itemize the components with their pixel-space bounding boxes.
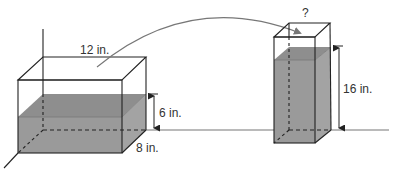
left-water-front: [18, 117, 122, 153]
curved-arrow-icon: [97, 18, 300, 67]
right-water-front: [274, 60, 315, 143]
left-length-label: 12 in.: [80, 43, 109, 57]
right-water-height-label: 16 in.: [343, 82, 372, 96]
right-top-face: [274, 23, 330, 37]
left-axis-diagonal: [4, 153, 18, 168]
right-base-unknown-label: ?: [302, 6, 309, 20]
left-container: 12 in. 6 in. 8 in.: [4, 29, 182, 168]
left-top-face: [18, 57, 146, 80]
right-container: ? 16 in.: [274, 6, 372, 143]
water-transfer-diagram: 12 in. 6 in. 8 in. ? 16 in.: [0, 0, 401, 172]
right-water-side: [315, 47, 331, 143]
left-water-height-label: 6 in.: [159, 106, 182, 120]
left-width-label: 8 in.: [136, 141, 159, 155]
